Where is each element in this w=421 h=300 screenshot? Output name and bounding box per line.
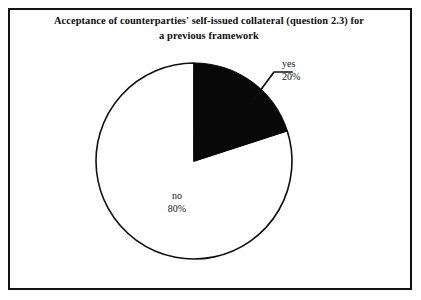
pie-label-yes-name: yes — [282, 58, 328, 71]
pie-label-no: no 80% — [142, 190, 212, 215]
pie-label-yes: yes 20% — [282, 58, 328, 83]
pie-label-yes-value: 20% — [282, 71, 328, 84]
pie-label-no-name: no — [142, 190, 212, 203]
pie-label-no-value: 80% — [142, 203, 212, 216]
pie-plot-area: yes 20% no 80% — [0, 0, 421, 300]
pie-chart-svg — [0, 0, 421, 300]
chart-screenshot: Acceptance of counterparties' self-issue… — [0, 0, 421, 300]
